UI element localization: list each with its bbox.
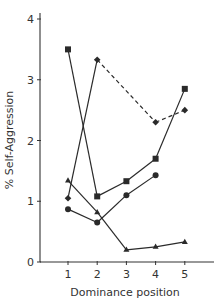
circle-marker [65,206,71,212]
circle-series [65,172,159,225]
series-segment [68,209,97,222]
y-tick-label: 4 [27,13,34,26]
x-axis-label: Dominance position [70,286,180,299]
triangle-marker [182,239,188,244]
square-marker [123,178,129,184]
y-tick-label: 1 [27,195,34,208]
x-tick-label: 5 [181,268,188,281]
diamond-marker [182,107,189,114]
series-segment [68,49,97,196]
y-tick-label: 0 [27,256,34,269]
circle-marker [94,220,100,226]
square-marker [65,46,71,52]
diamond-marker [65,195,72,202]
x-tick-label: 4 [152,268,159,281]
x-tick-label: 3 [123,268,130,281]
triangle-series [65,177,188,252]
y-tick-label: 3 [27,74,34,87]
chart: 0123412345 Dominance position % Self-Agg… [0,0,224,303]
square-marker [153,156,159,162]
circle-marker [123,192,129,198]
square-marker [182,86,188,92]
x-tick-label: 1 [65,268,72,281]
series-segment [156,89,185,159]
triangle-marker [65,177,71,182]
series-segment [156,242,185,247]
y-tick-label: 2 [27,135,34,148]
series-segment [156,110,185,122]
series-segment [68,181,97,213]
series-segment [97,212,126,250]
circle-marker [153,172,159,178]
square-marker [94,193,100,199]
series-segment [97,181,126,196]
series-segment [126,247,155,250]
series-group [65,46,188,251]
x-tick-label: 2 [94,268,101,281]
y-axis-label: % Self-Aggression [3,91,16,190]
series-segment [97,60,155,123]
diamond-marker [152,119,159,126]
series-segment [68,60,97,199]
